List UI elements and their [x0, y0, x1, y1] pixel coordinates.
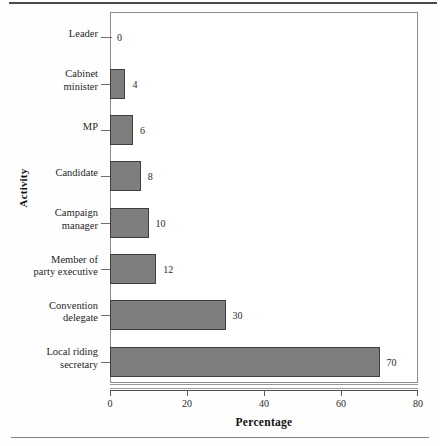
bar-value-label: 10: [156, 219, 166, 229]
bar-value-label: 6: [140, 126, 145, 136]
bar: [110, 208, 149, 238]
bar-value-label: 4: [132, 80, 137, 90]
y-axis-label: Campaign manager: [2, 207, 98, 232]
y-axis-label: MP: [2, 121, 98, 134]
bar-value-label: 30: [233, 311, 243, 321]
x-axis-tick: [110, 390, 111, 396]
bar-value-label: 8: [148, 172, 153, 182]
bar: [110, 69, 125, 99]
figure-page: Activity LeaderCabinet ministerMPCandida…: [0, 0, 440, 446]
bar-value-label: 12: [163, 265, 173, 275]
x-axis-tick-label: 60: [321, 398, 361, 409]
bar: [110, 161, 141, 191]
y-axis-label: Member of party executive: [2, 254, 98, 279]
y-axis-label: Leader: [2, 28, 98, 41]
bar: [110, 254, 156, 284]
bar: [110, 347, 380, 377]
bar-value-label: 70: [387, 358, 397, 368]
x-axis-tick-label: 0: [90, 398, 130, 409]
x-axis-title: Percentage: [110, 416, 418, 428]
bar: [110, 300, 226, 330]
x-axis-tick: [187, 390, 188, 396]
x-axis-tick-label: 40: [244, 398, 284, 409]
y-axis-label: Convention delegate: [2, 300, 98, 325]
y-axis-label: Candidate: [2, 167, 98, 180]
x-axis-tick: [341, 390, 342, 396]
x-axis-strip: [110, 384, 418, 389]
y-axis-label: Cabinet minister: [2, 68, 98, 93]
bar-value-label: 0: [117, 33, 122, 43]
x-axis-tick-label: 20: [167, 398, 207, 409]
page-rule-top: [9, 2, 437, 4]
bars-layer: [110, 12, 418, 383]
page-rule-bottom: [11, 437, 429, 438]
x-axis-tick: [417, 390, 418, 396]
y-axis-label: Local riding secretary: [2, 346, 98, 371]
bar: [110, 115, 133, 145]
x-axis-tick: [264, 390, 265, 396]
x-axis-tick-label: 80: [398, 398, 438, 409]
